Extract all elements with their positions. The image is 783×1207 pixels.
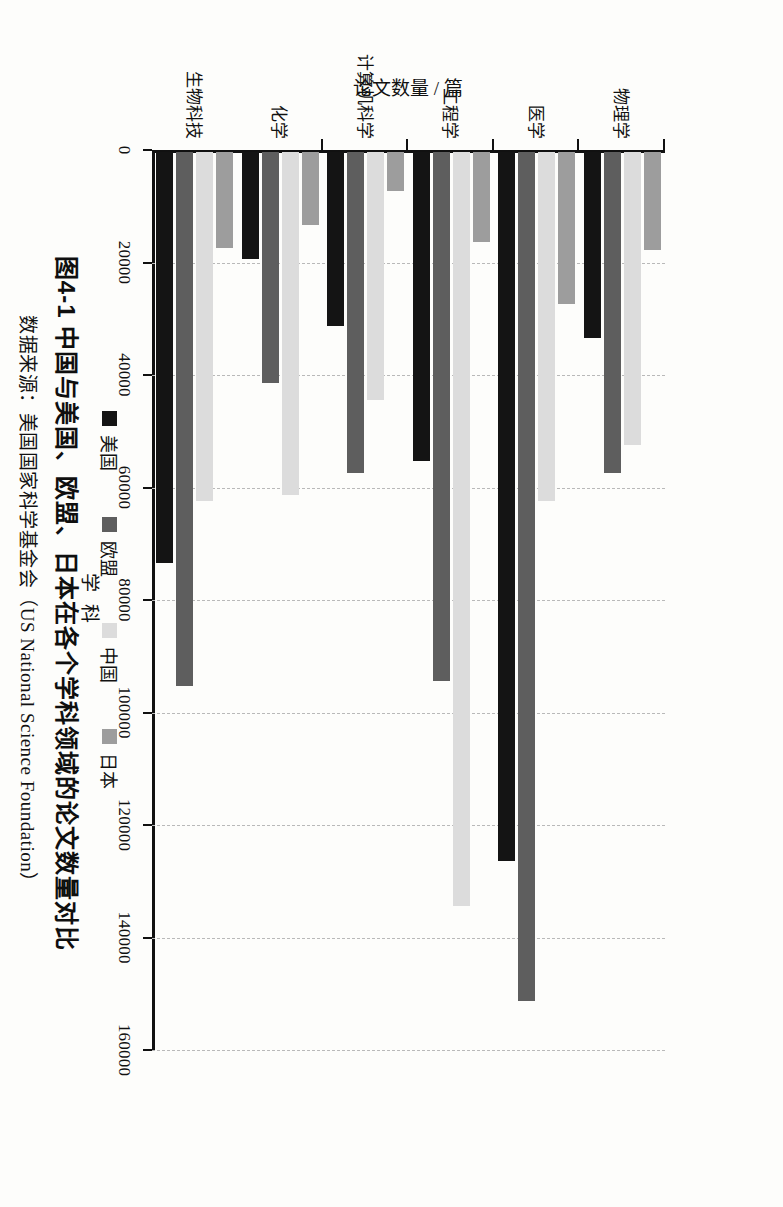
legend-swatch-japan bbox=[103, 729, 118, 744]
category-tick bbox=[492, 139, 494, 150]
axis-tick bbox=[143, 937, 152, 939]
figure-sheet: 0200004000060000800001000001200001400001… bbox=[0, 0, 783, 1207]
axis-tick bbox=[143, 712, 152, 714]
legend-item-欧盟: 欧盟 bbox=[97, 517, 123, 577]
bar-美国-生物科技 bbox=[156, 152, 173, 563]
bar-欧盟-物理学 bbox=[604, 152, 621, 473]
gridline bbox=[152, 938, 665, 939]
category-label-医学: 医学 bbox=[524, 105, 549, 146]
bar-日本-工程学 bbox=[473, 152, 490, 242]
category-tick bbox=[321, 139, 323, 150]
legend-label: 美国 bbox=[97, 435, 123, 471]
category-tick bbox=[663, 139, 665, 150]
axis-tick bbox=[143, 262, 152, 264]
bar-欧盟-工程学 bbox=[433, 152, 450, 681]
axis-tick bbox=[143, 487, 152, 489]
legend-item-中国: 中国 bbox=[97, 623, 123, 683]
bar-美国-计算机科学 bbox=[327, 152, 344, 326]
rotated-page-wrapper: 0200004000060000800001000001200001400001… bbox=[0, 0, 783, 1207]
bar-中国-生物科技 bbox=[196, 152, 213, 501]
category-label-化学: 化学 bbox=[268, 105, 293, 146]
bar-欧盟-化学 bbox=[262, 152, 279, 383]
legend-item-日本: 日本 bbox=[97, 729, 123, 789]
gridline bbox=[152, 488, 665, 489]
legend-label: 中国 bbox=[97, 647, 123, 683]
category-tick bbox=[407, 139, 409, 150]
bar-日本-物理学 bbox=[644, 152, 661, 250]
bar-中国-物理学 bbox=[624, 152, 641, 445]
bar-日本-生物科技 bbox=[216, 152, 233, 248]
bar-中国-计算机科学 bbox=[367, 152, 384, 400]
gridline bbox=[152, 375, 665, 376]
axis-tick bbox=[143, 149, 152, 151]
axis-tick bbox=[143, 599, 152, 601]
bar-日本-化学 bbox=[302, 152, 319, 225]
legend-item-美国: 美国 bbox=[97, 411, 123, 471]
bar-美国-医学 bbox=[498, 152, 515, 861]
bar-中国-医学 bbox=[538, 152, 555, 501]
bar-美国-化学 bbox=[242, 152, 259, 259]
bar-欧盟-计算机科学 bbox=[347, 152, 364, 473]
gridline bbox=[152, 713, 665, 714]
bar-中国-工程学 bbox=[453, 152, 470, 906]
axis-tick bbox=[143, 374, 152, 376]
legend-swatch-china bbox=[103, 623, 118, 638]
figure-caption: 图4-1 中国与美国、欧盟、日本在各个学科领域的论文数量对比 bbox=[51, 0, 86, 1207]
axis-tick bbox=[143, 1049, 152, 1051]
gridline bbox=[152, 825, 665, 826]
gridline bbox=[152, 1050, 665, 1051]
bar-欧盟-生物科技 bbox=[176, 152, 193, 686]
bar-日本-计算机科学 bbox=[387, 152, 404, 191]
bar-欧盟-医学 bbox=[518, 152, 535, 1001]
category-label-物理学: 物理学 bbox=[610, 88, 635, 146]
legend-swatch-eu bbox=[103, 517, 118, 532]
category-tick bbox=[578, 139, 580, 150]
bar-日本-医学 bbox=[558, 152, 575, 304]
legend-label: 日本 bbox=[97, 753, 123, 789]
bar-美国-工程学 bbox=[413, 152, 430, 461]
legend-swatch-usa bbox=[103, 411, 118, 426]
bar-美国-物理学 bbox=[584, 152, 601, 338]
figure-source: 数据来源：美国国家科学基金会（US National Science Found… bbox=[16, 0, 43, 1207]
category-label-生物科技: 生物科技 bbox=[182, 71, 207, 146]
chart-legend: 美国欧盟中国日本 bbox=[97, 150, 123, 1050]
bar-中国-化学 bbox=[282, 152, 299, 495]
value-axis-title: 论文数量 / 篇 bbox=[354, 73, 464, 100]
legend-label: 欧盟 bbox=[97, 541, 123, 577]
gridline bbox=[152, 600, 665, 601]
bar-chart-plot-area: 0200004000060000800001000001200001400001… bbox=[152, 150, 665, 1050]
axis-tick bbox=[143, 824, 152, 826]
